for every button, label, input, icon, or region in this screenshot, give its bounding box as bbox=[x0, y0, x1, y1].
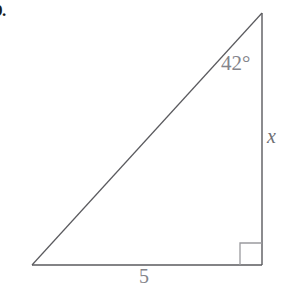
angle-label: 42° bbox=[221, 53, 250, 74]
right-triangle-figure bbox=[0, 0, 291, 285]
right-angle-marker-icon bbox=[240, 243, 262, 265]
side-label-5: 5 bbox=[139, 266, 149, 285]
problem-number: 9. bbox=[0, 2, 6, 19]
side-label-x: x bbox=[267, 126, 276, 146]
